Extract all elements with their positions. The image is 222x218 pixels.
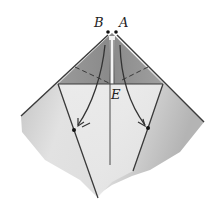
left-reference-dot	[72, 128, 76, 132]
point-a-dot	[114, 30, 118, 34]
right-reference-dot	[146, 126, 150, 130]
point-b-dot	[106, 30, 110, 34]
label-e: E	[111, 88, 121, 101]
origami-diagram: B A E	[0, 0, 222, 218]
label-a: A	[119, 16, 128, 29]
diagram-canvas	[0, 0, 222, 218]
label-b: B	[94, 16, 104, 29]
